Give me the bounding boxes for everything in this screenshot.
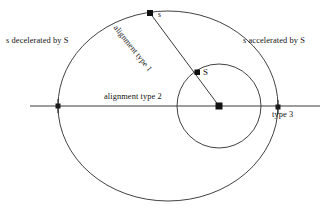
label-point-S: S — [203, 68, 208, 77]
label-type-3: type 3 — [272, 111, 293, 119]
label-point-s: s — [158, 11, 161, 19]
center-body-marker — [216, 103, 223, 110]
point-s-marker — [147, 10, 153, 16]
label-s-accelerated-by-S: s accelerated by S — [243, 37, 305, 45]
label-s-decelerated-by-S: s decelerated by S — [6, 37, 69, 45]
label-alignment-type-2: alignment type 2 — [104, 93, 162, 101]
point-S-marker — [195, 70, 201, 76]
diagram-canvas — [0, 0, 331, 210]
left-crossing-marker — [56, 99, 61, 113]
alignment-diagram: s decelerated by S s accelerated by S al… — [0, 0, 331, 210]
